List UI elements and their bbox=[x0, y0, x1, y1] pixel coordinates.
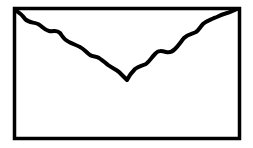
envelope-icon bbox=[0, 0, 253, 148]
envelope-graphic bbox=[0, 0, 253, 148]
envelope-body bbox=[15, 9, 240, 139]
